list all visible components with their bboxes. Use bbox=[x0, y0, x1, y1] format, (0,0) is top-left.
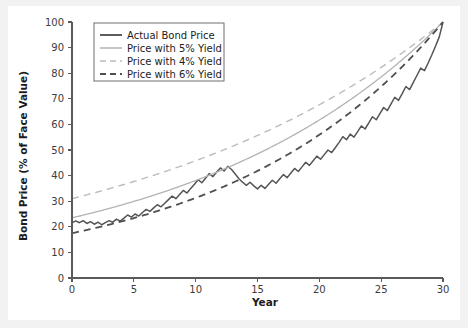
y-tick-label: 40 bbox=[51, 170, 64, 181]
y-tick-label: 50 bbox=[51, 145, 64, 156]
y-tick-label: 0 bbox=[58, 273, 64, 284]
y-tick-label: 10 bbox=[51, 247, 64, 258]
chart-figure: 0102030405060708090100051015202530 Actua… bbox=[8, 6, 460, 320]
x-tick-label: 25 bbox=[375, 284, 388, 295]
x-tick-label: 20 bbox=[313, 284, 326, 295]
legend-label: Price with 5% Yield bbox=[127, 43, 222, 54]
y-tick-label: 90 bbox=[51, 42, 64, 53]
legend-label: Price with 4% Yield bbox=[127, 56, 222, 67]
y-tick-label: 100 bbox=[45, 17, 64, 28]
y-tick-label: 80 bbox=[51, 68, 64, 79]
x-tick-label: 0 bbox=[69, 284, 75, 295]
y-tick-label: 30 bbox=[51, 196, 64, 207]
x-tick-label: 5 bbox=[131, 284, 137, 295]
y-tick-label: 20 bbox=[51, 221, 64, 232]
x-tick-label: 30 bbox=[437, 284, 450, 295]
y-tick-label: 60 bbox=[51, 119, 64, 130]
chart-legend[interactable]: Actual Bond PricePrice with 5% YieldPric… bbox=[94, 23, 224, 81]
x-tick-label: 10 bbox=[189, 284, 202, 295]
legend-label: Price with 6% Yield bbox=[127, 69, 222, 80]
y-tick-label: 70 bbox=[51, 93, 64, 104]
x-axis-title: Year bbox=[251, 296, 279, 308]
legend-label: Actual Bond Price bbox=[127, 30, 215, 41]
bond-price-line-chart: 0102030405060708090100051015202530 Actua… bbox=[8, 6, 460, 320]
x-tick-label: 15 bbox=[251, 284, 264, 295]
y-axis-title: Bond Price (% of Face Value) bbox=[17, 71, 29, 241]
